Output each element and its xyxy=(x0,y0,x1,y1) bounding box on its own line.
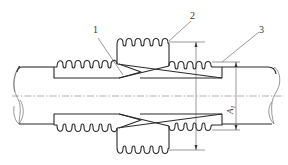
crossed-liner xyxy=(117,64,222,78)
callout-1-leader xyxy=(98,38,123,75)
bellows-joint-diagram: A1 1 2 3 xyxy=(0,0,288,165)
left-pipe-break xyxy=(14,67,24,124)
right-pipe-top xyxy=(222,67,276,74)
bottom-half xyxy=(54,114,222,154)
middle-bellows-top xyxy=(117,39,169,67)
callout-3-leader xyxy=(222,32,259,62)
callout-1-label: 1 xyxy=(93,24,98,35)
left-pipe-top-curve xyxy=(17,67,22,72)
callout-2-label: 2 xyxy=(190,10,195,21)
dimension-a1-label: A1 xyxy=(225,106,236,116)
callout-3-label: 3 xyxy=(259,24,264,35)
right-pipe-break xyxy=(269,67,280,124)
callout-2-leader xyxy=(169,21,191,41)
